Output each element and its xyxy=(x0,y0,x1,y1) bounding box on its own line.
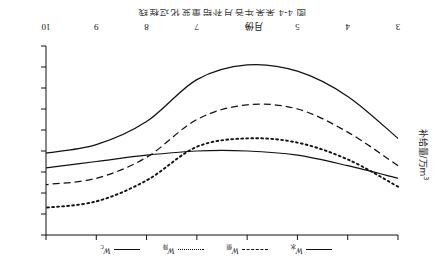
legend-label-main: W xyxy=(104,246,111,256)
legend-label-sub: 侧 xyxy=(226,245,232,251)
figure-caption-text: 图 4-4 某某年各月补给量变化过程线 xyxy=(138,7,307,16)
legend-label-main: W xyxy=(296,246,303,256)
legend-label: W侧 xyxy=(226,244,239,257)
y-axis-title-superscript: 3 xyxy=(422,176,430,180)
legend-swatch-solid xyxy=(306,250,332,251)
series-line-3 xyxy=(46,138,398,207)
x-tick-label: 4 xyxy=(345,22,350,32)
legend-item-w-c[interactable]: WC xyxy=(100,244,140,256)
x-axis-ticks xyxy=(46,235,398,240)
legend-label-sub: 降 xyxy=(162,245,168,251)
figure-caption: 图 4-4 某某年各月补给量变化过程线 xyxy=(0,0,444,16)
y-axis-ticks xyxy=(41,46,46,235)
y-axis-title: 补给量/万m3 xyxy=(417,100,430,210)
figure-root: 图 4-4 某某年各月补给量变化过程线 月份 补给量/万m3 345678910… xyxy=(0,0,444,265)
y-axis-title-text: 补给量/万m xyxy=(418,129,428,177)
chart-canvas xyxy=(46,46,398,235)
series-line-4 xyxy=(46,150,398,178)
x-tick-label: 6 xyxy=(245,22,250,32)
legend-label-sub: 水 xyxy=(290,245,296,251)
x-tick-label: 5 xyxy=(295,22,300,32)
legend-label: W水 xyxy=(290,244,303,257)
chart-legend: W水W侧W降WC xyxy=(100,243,332,257)
x-tick-label: 9 xyxy=(94,22,99,32)
legend-swatch-dashed xyxy=(242,250,268,251)
legend-label: W降 xyxy=(162,244,175,257)
x-axis-title: 月份 xyxy=(64,20,444,33)
series-layer xyxy=(46,65,398,208)
legend-item-w-ce[interactable]: W侧 xyxy=(226,244,268,257)
legend-label: WC xyxy=(100,244,111,256)
legend-label-main: W xyxy=(232,246,239,256)
x-tick-label: 3 xyxy=(396,22,401,32)
legend-swatch-solid xyxy=(114,250,140,251)
legend-item-w-jiang[interactable]: W降 xyxy=(162,244,204,257)
plot-area: 345678910 010002000300040005000600070008… xyxy=(46,46,398,235)
x-tick-label: 7 xyxy=(195,22,200,32)
legend-swatch-dotted xyxy=(178,250,204,251)
legend-label-sub: C xyxy=(100,244,104,250)
legend-label-main: W xyxy=(168,246,175,256)
x-tick-label: 10 xyxy=(42,22,51,32)
x-tick-label: 8 xyxy=(144,22,149,32)
legend-item-w-shui[interactable]: W水 xyxy=(290,244,332,257)
